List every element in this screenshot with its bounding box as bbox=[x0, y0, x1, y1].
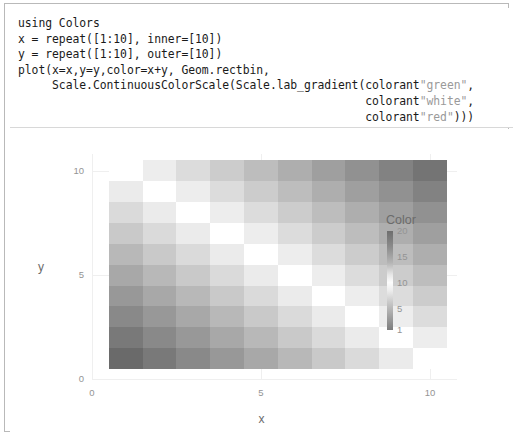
heatmap-cell bbox=[278, 244, 312, 265]
code-token: x = repeat([1:10], inner=[10]) bbox=[18, 32, 222, 46]
heatmap-cell bbox=[244, 160, 278, 181]
y-tick-label: 0 bbox=[56, 373, 84, 384]
heatmap-cell bbox=[244, 223, 278, 244]
heatmap-cell bbox=[312, 327, 346, 348]
heatmap-cell bbox=[278, 202, 312, 223]
screenshot-root: using Colors x = repeat([1:10], inner=[1… bbox=[0, 0, 513, 437]
heatmap-cell bbox=[278, 285, 312, 306]
heatmap-cell bbox=[345, 202, 379, 223]
code-token: y = repeat([1:10], outer=[10]) bbox=[18, 47, 222, 61]
heatmap-cell bbox=[176, 181, 210, 202]
heatmap-cell bbox=[379, 160, 413, 181]
code-token: Scale.ContinuousColorScale(Scale.lab_gra… bbox=[18, 78, 420, 92]
heatmap-cell bbox=[176, 327, 210, 348]
code-token: plot(x=x,y=y,color=x+y, Geom.rectbin, bbox=[18, 63, 270, 77]
code-token: "white" bbox=[420, 94, 468, 108]
x-tick-label: 0 bbox=[72, 387, 112, 398]
heatmap-cell bbox=[244, 264, 278, 285]
heatmap-cell bbox=[413, 181, 447, 202]
heatmap-cell bbox=[413, 348, 447, 369]
x-tick-label: 5 bbox=[241, 387, 281, 398]
heatmap-cell bbox=[210, 348, 244, 369]
heatmap-cell bbox=[278, 348, 312, 369]
heatmap-cell bbox=[345, 306, 379, 327]
plot-panel: 0510 0510 y x Color 20151051 bbox=[10, 129, 513, 435]
legend-tick-label: 20 bbox=[397, 226, 408, 236]
heatmap-cell bbox=[109, 264, 143, 285]
legend-tick-label: 5 bbox=[397, 304, 402, 314]
heatmap-cell bbox=[109, 285, 143, 306]
heatmap-cell bbox=[109, 244, 143, 265]
x-axis-label: x bbox=[10, 412, 513, 426]
heatmap-cell bbox=[345, 223, 379, 244]
code-token: , bbox=[467, 94, 474, 108]
heatmap-cell bbox=[312, 348, 346, 369]
heatmap-cell bbox=[379, 181, 413, 202]
code-token: ))) bbox=[454, 110, 474, 124]
code-token: "green" bbox=[420, 78, 468, 92]
y-tick-label: 5 bbox=[56, 269, 84, 280]
heatmap-cell bbox=[413, 160, 447, 181]
heatmap-cell bbox=[143, 264, 177, 285]
heatmap-cell bbox=[143, 327, 177, 348]
figure-frame: using Colors x = repeat([1:10], inner=[1… bbox=[4, 3, 509, 432]
heatmap-cell bbox=[176, 264, 210, 285]
heatmap-cell bbox=[278, 223, 312, 244]
heatmap-cell bbox=[176, 202, 210, 223]
heatmap-cell bbox=[109, 223, 143, 244]
heatmap-cell bbox=[143, 160, 177, 181]
heatmap-cell bbox=[244, 202, 278, 223]
heatmap-cell bbox=[312, 223, 346, 244]
heatmap-cell bbox=[345, 181, 379, 202]
heatmap-cell bbox=[210, 327, 244, 348]
heatmap-cell bbox=[312, 160, 346, 181]
heatmap-cell bbox=[312, 202, 346, 223]
heatmap-cell bbox=[244, 306, 278, 327]
heatmap-cell bbox=[244, 285, 278, 306]
heatmap-cell bbox=[345, 264, 379, 285]
heatmap-cell bbox=[312, 306, 346, 327]
heatmap-cell bbox=[210, 244, 244, 265]
heatmap-cell bbox=[244, 348, 278, 369]
heatmap-cell bbox=[176, 244, 210, 265]
code-text: using Colors x = repeat([1:10], inner=[1… bbox=[10, 8, 513, 125]
heatmap-cell bbox=[109, 306, 143, 327]
heatmap-cell bbox=[143, 348, 177, 369]
legend-tick-label: 1 bbox=[397, 325, 402, 335]
legend-tick-label: 15 bbox=[397, 252, 408, 262]
heatmap-cell bbox=[345, 244, 379, 265]
heatmap-cell bbox=[109, 202, 143, 223]
heatmap-cell bbox=[143, 181, 177, 202]
heatmap-cell bbox=[345, 160, 379, 181]
heatmap-cell bbox=[176, 285, 210, 306]
heatmap-cell bbox=[312, 264, 346, 285]
x-tick-label: 10 bbox=[410, 387, 450, 398]
heatmap-cell bbox=[278, 306, 312, 327]
heatmap-cell bbox=[379, 348, 413, 369]
heatmap-cell bbox=[109, 348, 143, 369]
heatmap-cell bbox=[176, 306, 210, 327]
code-token: "red" bbox=[420, 110, 454, 124]
heatmap-cell bbox=[176, 160, 210, 181]
heatmap-cell bbox=[244, 327, 278, 348]
heatmap-cell bbox=[312, 244, 346, 265]
legend-gradient-bar bbox=[387, 231, 393, 330]
heatmap-cell bbox=[312, 285, 346, 306]
code-token: colorant bbox=[18, 94, 420, 108]
code-token: , bbox=[467, 78, 474, 92]
heatmap-cell bbox=[176, 223, 210, 244]
heatmap-cell bbox=[210, 223, 244, 244]
heatmap-cell bbox=[345, 285, 379, 306]
heatmap-cell bbox=[210, 285, 244, 306]
heatmap-cell bbox=[109, 181, 143, 202]
heatmap-cell bbox=[278, 327, 312, 348]
heatmap-cell bbox=[143, 285, 177, 306]
code-token: colorant bbox=[18, 110, 420, 124]
heatmap-cell bbox=[143, 244, 177, 265]
y-tick-label: 10 bbox=[56, 165, 84, 176]
heatmap-cell bbox=[278, 264, 312, 285]
heatmap-cell bbox=[244, 244, 278, 265]
heatmap-cell bbox=[312, 181, 346, 202]
heatmap-cell bbox=[210, 160, 244, 181]
gridline-horizontal bbox=[92, 379, 457, 380]
